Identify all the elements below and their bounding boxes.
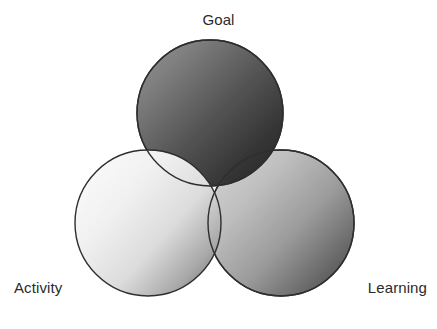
venn-circle-activity [75, 150, 221, 296]
venn-label-learning: Learning [368, 279, 427, 296]
venn-diagram-figure: Goal Activity Learning [0, 0, 437, 329]
venn-label-goal: Goal [0, 11, 437, 28]
venn-label-activity: Activity [14, 279, 62, 296]
